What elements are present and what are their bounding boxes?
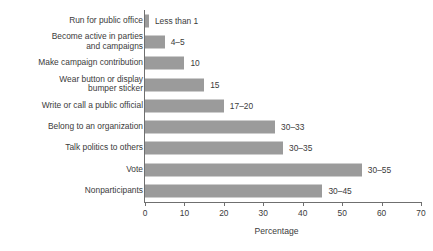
bar-value-label: 4–5 [171,37,185,47]
bar-track [145,78,204,91]
x-tick-mark [184,202,185,206]
x-tick-label: 60 [377,208,386,218]
x-tick-mark [382,202,383,206]
bar-row: Become active in parties and campaigns4–… [0,31,433,52]
bar [145,99,224,112]
bar [145,185,322,198]
x-tick-label: 40 [298,208,307,218]
category-label: Make campaign contribution [0,58,143,68]
category-label: Vote [0,165,143,175]
bar-track [145,163,362,176]
bar [145,57,184,70]
category-label: Talk politics to others [0,144,143,154]
x-tick-label: 70 [416,208,425,218]
bar [145,78,204,91]
bar-rows: Run for public officeLess than 1Become a… [0,10,433,202]
bar [145,121,275,134]
bar-row: Belong to an organization30–33 [0,116,433,137]
x-tick-label: 0 [143,208,148,218]
bar-row: Talk politics to others30–35 [0,138,433,159]
bar-row: Vote30–55 [0,159,433,180]
bar-value-label: 15 [210,80,219,90]
bar-track [145,121,275,134]
bar-track [145,57,184,70]
x-tick-mark [342,202,343,206]
x-tick-mark [303,202,304,206]
category-label: Wear button or display bumper sticker [0,75,143,94]
x-tick-mark [421,202,422,206]
bar-row: Make campaign contribution10 [0,53,433,74]
x-tick-label: 20 [219,208,228,218]
bar [145,14,149,27]
bar-track [145,35,165,48]
bar-row: Run for public officeLess than 1 [0,10,433,31]
bar-value-label: 30–33 [281,122,304,132]
bar-track [145,99,224,112]
bar-value-label: 30–55 [368,165,391,175]
bar-value-label: Less than 1 [155,16,198,26]
bar-value-label: 10 [190,58,199,68]
bar-track [145,185,322,198]
category-label: Write or call a public official [0,101,143,111]
category-label: Run for public office [0,16,143,26]
category-label: Become active in parties and campaigns [0,32,143,51]
bar-row: Wear button or display bumper sticker15 [0,74,433,95]
x-tick-label: 10 [180,208,189,218]
x-axis-title: Percentage [0,226,433,236]
bar-value-label: 17–20 [230,101,253,111]
x-tick-label: 30 [259,208,268,218]
x-tick-mark [224,202,225,206]
bar [145,142,283,155]
x-tick-mark [145,202,146,206]
x-tick-label: 50 [337,208,346,218]
x-tick-mark [263,202,264,206]
category-label: Belong to an organization [0,122,143,132]
bar-chart: Run for public officeLess than 1Become a… [0,0,433,251]
bar-value-label: 30–35 [289,143,312,153]
bar-track [145,14,149,27]
bar-track [145,142,283,155]
bar [145,163,362,176]
bar [145,35,165,48]
bar-row: Write or call a public official17–20 [0,95,433,116]
bar-value-label: 30–45 [328,186,351,196]
category-label: Nonparticipants [0,186,143,196]
bar-row: Nonparticipants30–45 [0,180,433,201]
